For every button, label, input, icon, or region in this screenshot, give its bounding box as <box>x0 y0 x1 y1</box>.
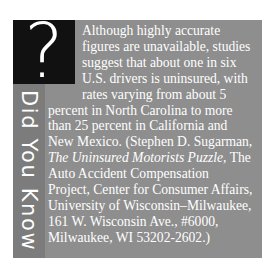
text-line: figures are unavailable, studies <box>48 39 260 55</box>
text-fragment: , The <box>223 150 251 165</box>
text-line: rates varying from about 5 <box>48 87 260 103</box>
text-line: Milwaukee, WI 53202-2602.) <box>48 230 260 246</box>
text-line: 161 W. Wisconsin Ave., #6000, <box>48 214 260 230</box>
fact-text: Although highly accurate figures are una… <box>48 23 260 246</box>
text-line: The Uninsured Motorists Puzzle, The <box>48 150 260 166</box>
text-line: New Mexico. (Stephen D. Sugarman, <box>48 134 260 150</box>
did-you-know-card: ? Did You Know Although highly accurate … <box>13 20 262 258</box>
text-line: percent in North Carolina to more <box>48 103 260 119</box>
text-line: University of Wisconsin–Milwaukee, <box>48 198 260 214</box>
side-strip: Did You Know <box>13 84 45 258</box>
did-you-know-label: Did You Know <box>17 90 41 251</box>
text-line: suggest that about one in six <box>48 55 260 71</box>
text-line: than 25 percent in California and <box>48 118 260 134</box>
text-line: U.S. drivers is uninsured, with <box>48 71 260 87</box>
book-title: The Uninsured Motorists Puzzle <box>48 150 223 165</box>
text-line: Auto Accident Compensation <box>48 166 260 182</box>
text-line: Although highly accurate <box>48 23 260 39</box>
text-line: Project, Center for Consumer Affairs, <box>48 182 260 198</box>
